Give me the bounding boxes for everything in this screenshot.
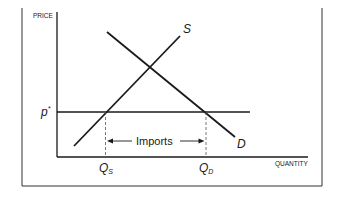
arrowhead-left-icon — [107, 139, 113, 144]
price-label: p* — [40, 105, 51, 119]
supply-curve — [74, 36, 180, 146]
demand-curve — [107, 32, 235, 137]
supply-demand-diagram: PRICE QUANTITY p* S D Imports QS QD — [0, 0, 339, 197]
arrowhead-right-icon — [199, 139, 205, 144]
qs-label: QS — [99, 161, 113, 175]
demand-label: D — [237, 137, 246, 151]
y-axis-label: PRICE — [33, 12, 54, 19]
qd-label: QD — [199, 161, 213, 175]
x-axis-label: QUANTITY — [275, 160, 309, 168]
supply-label: S — [183, 22, 191, 36]
imports-label: Imports — [136, 135, 173, 147]
